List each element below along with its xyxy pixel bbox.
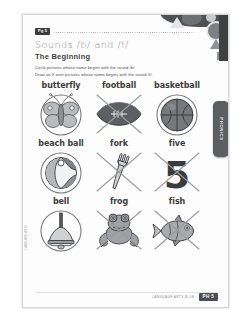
five-icon: 5 [149, 149, 205, 195]
fish-icon [149, 207, 205, 253]
item-illustration [91, 149, 147, 195]
beach-ball-icon [33, 149, 89, 195]
item-label: bell [53, 197, 69, 206]
instructions-block: Circle pictures whose name begins with t… [35, 65, 194, 78]
grid-item[interactable]: butterfly [33, 81, 89, 137]
item-label: beach ball [38, 139, 83, 148]
section-tab-label: PHONICS [219, 117, 224, 140]
svg-text:5: 5 [164, 153, 190, 195]
item-label: basketball [154, 81, 200, 90]
page-badge: Pg 5 [35, 28, 50, 35]
worksheet-footer: LANGUAGE ARTS BLUE PH 5 [35, 293, 218, 301]
frog-icon [91, 207, 147, 253]
item-label: fork [110, 139, 128, 148]
item-label: frog [110, 197, 128, 206]
item-illustration: 5 [149, 149, 205, 195]
grid-item[interactable]: football [91, 81, 147, 137]
grid-item[interactable]: frog [91, 197, 147, 253]
margin-imprint-text: LANGUAGE ARTS [25, 225, 28, 249]
instruction-line-1: Circle pictures whose name begins with t… [35, 65, 194, 71]
item-illustration [149, 91, 205, 137]
item-label: five [169, 139, 185, 148]
bell-icon [33, 207, 89, 253]
fork-icon [91, 149, 147, 195]
grid-item[interactable]: beach ball [33, 139, 89, 195]
section-tab-phonics[interactable]: PHONICS [213, 101, 229, 157]
dotted-rule-divider [53, 32, 194, 33]
item-label: football [102, 81, 136, 90]
item-illustration [33, 91, 89, 137]
worksheet-page: PHONICS LANGUAGE ARTS Pg 5 Sounds /b/ an… [22, 14, 229, 308]
item-label: fish [169, 197, 185, 206]
page-title: Sounds /b/ and /f/ [35, 39, 194, 50]
football-icon [91, 91, 147, 137]
grid-item[interactable]: fish [149, 197, 205, 253]
instruction-line-2: Draw an X over pictures whose name begin… [35, 72, 194, 78]
item-illustration [33, 207, 89, 253]
grid-item[interactable]: five 5 [149, 139, 205, 195]
item-illustration [91, 91, 147, 137]
grid-item[interactable]: basketball [149, 81, 205, 137]
grid-item[interactable]: bell [33, 197, 89, 253]
page-subtitle: The Beginning [35, 52, 194, 61]
butterfly-icon [33, 91, 89, 137]
picture-grid: butterfly [33, 81, 200, 253]
grid-item[interactable]: fork [91, 139, 147, 195]
worksheet-header: Pg 5 Sounds /b/ and /f/ The Beginning Ci… [35, 27, 194, 79]
footer-source-label: LANGUAGE ARTS BLUE [152, 295, 194, 299]
item-label: butterfly [42, 81, 81, 90]
item-illustration [149, 207, 205, 253]
worksheet-screenshot: PHONICS LANGUAGE ARTS Pg 5 Sounds /b/ an… [0, 0, 249, 321]
footer-page-badge: PH 5 [199, 293, 218, 301]
badge-row: Pg 5 [35, 27, 194, 35]
item-illustration [91, 207, 147, 253]
basketball-icon [149, 91, 205, 137]
item-illustration [33, 149, 89, 195]
